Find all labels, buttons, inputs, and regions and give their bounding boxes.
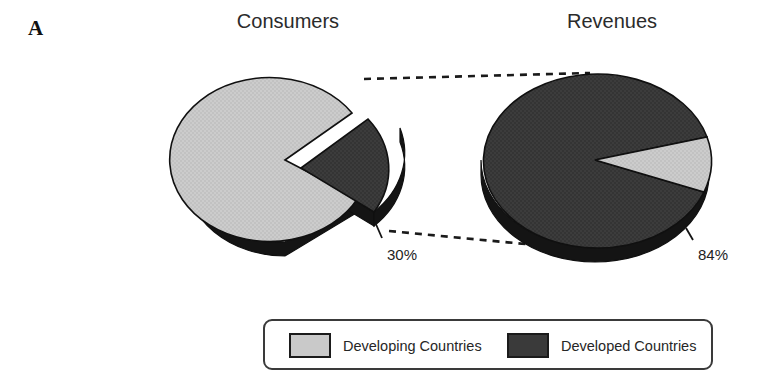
revenues-callout-tick [686,228,693,240]
percent-label-revenues: 84% [698,246,728,263]
legend-swatch-developed [507,333,549,358]
legend-item-developing: Developing Countries [289,333,482,358]
pie-revenues [481,74,711,262]
consumers-callout-tick [375,222,382,238]
percent-label-consumers: 30% [387,246,417,263]
connector-line-top [364,73,590,79]
pie-consumers [170,78,405,256]
legend-label-developed: Developed Countries [561,338,696,354]
legend-label-developing: Developing Countries [343,338,482,354]
figure-root: A Consumers Revenues [0,0,772,389]
legend-swatch-developing [289,333,331,358]
legend-item-developed: Developed Countries [507,333,696,358]
legend: Developing Countries Developed Countries [263,319,713,370]
